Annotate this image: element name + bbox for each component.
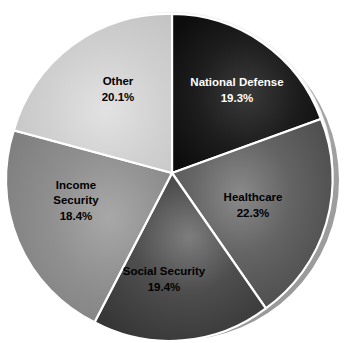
pie-label-other-name: Other — [103, 75, 134, 87]
pie-label-income-security-value: 18.4% — [60, 210, 93, 222]
pie-label-other-value: 20.1% — [102, 91, 135, 103]
pie-chart-svg: National Defense 19.3% Healthcare 22.3% … — [0, 0, 360, 343]
pie-label-social-security-value: 19.4% — [148, 281, 181, 293]
pie-label-national-defense-value: 19.3% — [221, 92, 254, 104]
pie-label-healthcare-value: 22.3% — [237, 207, 270, 219]
pie-label-income-security-name-line2: Security — [53, 194, 99, 206]
pie-label-income-security-name-line1: Income — [56, 179, 96, 191]
pie-label-social-security-name: Social Security — [123, 265, 206, 277]
pie-label-national-defense-name: National Defense — [190, 76, 283, 88]
pie-chart-figure: National Defense 19.3% Healthcare 22.3% … — [0, 0, 360, 343]
pie-label-healthcare-name: Healthcare — [224, 191, 283, 203]
